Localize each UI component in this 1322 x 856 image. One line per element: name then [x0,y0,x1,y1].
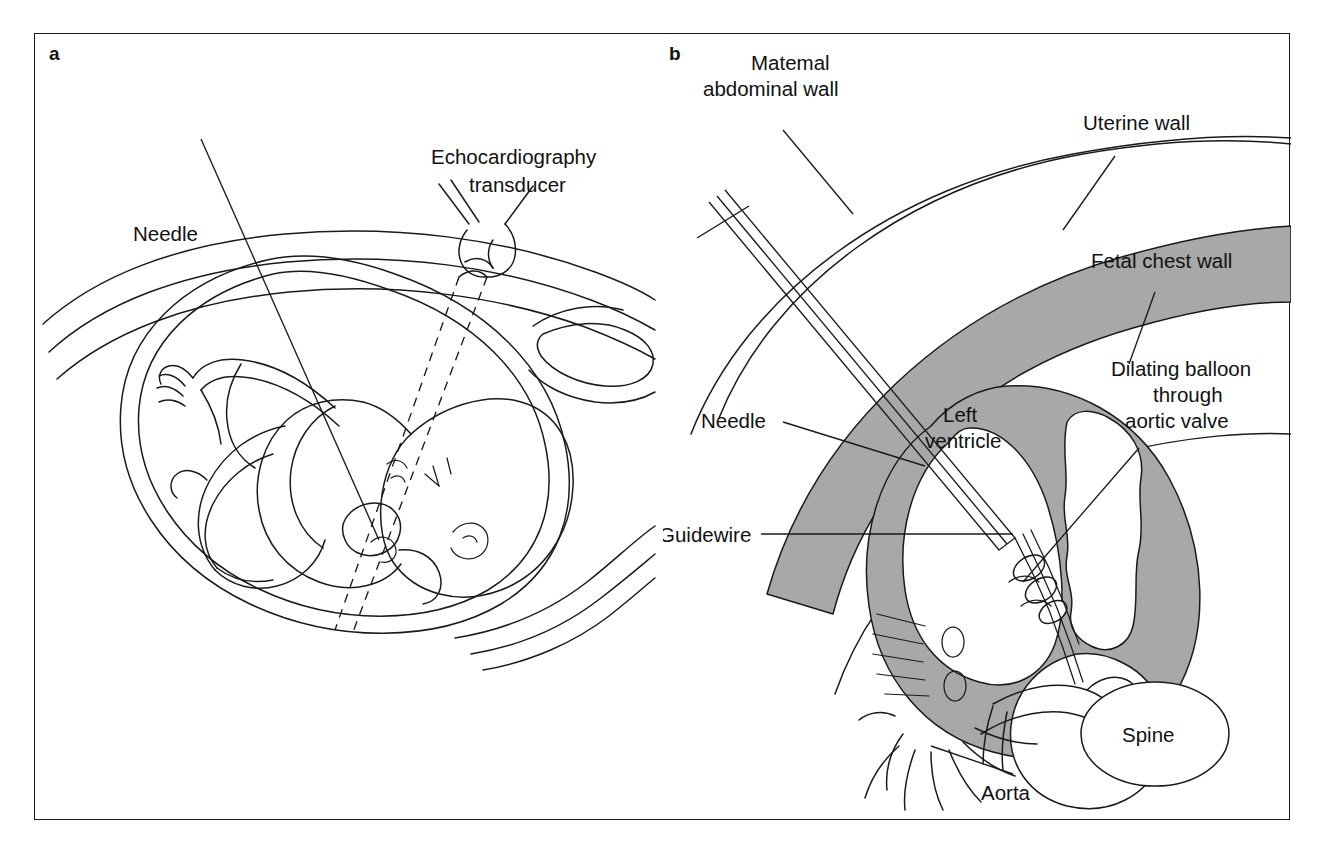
label-uterine-wall: Uterine wall [1083,111,1190,134]
label-needle-b: Needle [701,409,766,432]
figure-frame: a [34,33,1290,820]
label-balloon-line1: Dilating balloon [1111,357,1251,380]
label-balloon-line2: through [1153,383,1223,406]
label-guidewire: Guidewire [663,523,751,546]
figure-container: a [0,0,1322,856]
panel-b-letter: b [669,43,681,64]
panel-a-illustration: a [35,34,663,817]
label-spine: Spine [1122,723,1174,746]
leader-uterine-wall [1063,156,1115,230]
label-left-ventricle-line1: Left [943,403,977,426]
leader-maternal-wall [783,130,853,214]
panel-b-illustration: b [663,34,1291,817]
ultrasound-beam-right [353,277,487,632]
label-maternal-line2: abdominal wall [703,77,839,100]
label-aorta: Aorta [981,781,1031,804]
label-transducer-line2: transducer [469,173,566,196]
label-transducer-line1: Echocardiography [431,145,597,168]
panel-a-letter: a [49,43,60,64]
label-balloon-line3: aortic valve [1125,409,1229,432]
label-needle-a: Needle [133,222,198,245]
label-fetal-chest-wall: Fetal chest wall [1091,249,1232,272]
label-left-ventricle-line2: ventricle [925,429,1001,452]
label-maternal-line1: Matemal [751,51,830,74]
interventricular-septum [1064,411,1142,649]
